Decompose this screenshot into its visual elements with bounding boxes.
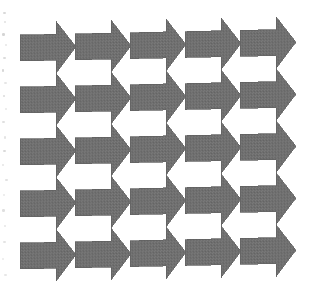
image-canvas xyxy=(0,0,317,293)
arrow-tessellation xyxy=(0,0,317,293)
arrow-grid xyxy=(20,16,296,282)
tessellation-artboard xyxy=(0,0,317,293)
